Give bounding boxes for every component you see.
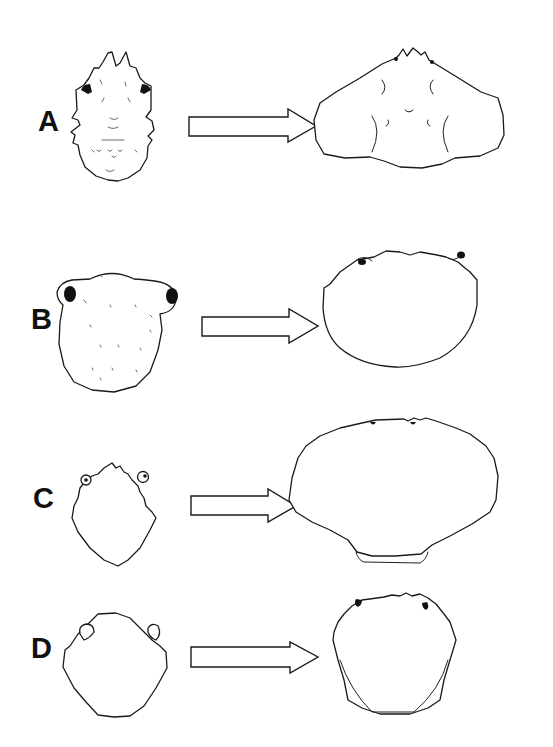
transformation-arrow-b xyxy=(202,309,318,343)
row-a: A xyxy=(38,48,504,181)
adult-carapace-d xyxy=(333,593,456,714)
panel-label-d: D xyxy=(31,632,52,664)
juvenile-carapace-d xyxy=(63,613,167,717)
panel-label-a: A xyxy=(38,105,59,137)
juvenile-carapace-c xyxy=(72,463,156,566)
panel-label-b: B xyxy=(31,303,52,335)
adult-carapace-a xyxy=(314,48,504,168)
carapace-transformation-figure: A B xyxy=(0,0,553,747)
row-b: B xyxy=(31,251,477,392)
transformation-arrow-a xyxy=(189,109,316,142)
adult-carapace-c xyxy=(289,418,498,563)
row-d: D xyxy=(31,593,456,717)
transformation-arrow-c xyxy=(191,489,296,522)
row-c: C xyxy=(33,418,498,566)
juvenile-carapace-b xyxy=(57,274,178,393)
panel-label-c: C xyxy=(33,482,54,514)
transformation-arrow-d xyxy=(191,642,318,673)
adult-carapace-b xyxy=(323,251,477,367)
juvenile-carapace-a xyxy=(71,52,154,181)
